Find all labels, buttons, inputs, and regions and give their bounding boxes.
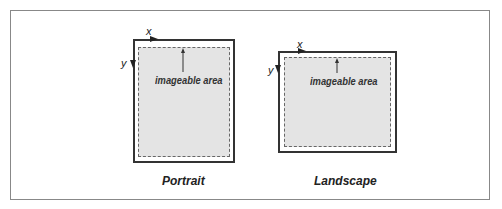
arrows-overlay	[0, 0, 502, 209]
portrait-area-pointer-icon	[181, 48, 185, 72]
landscape-area-pointer-icon	[335, 58, 339, 73]
landscape-x-arrow-icon	[298, 48, 306, 54]
portrait-x-arrow-icon	[150, 36, 158, 42]
portrait-y-arrow-icon	[130, 60, 136, 68]
landscape-y-arrow-icon	[275, 65, 281, 73]
